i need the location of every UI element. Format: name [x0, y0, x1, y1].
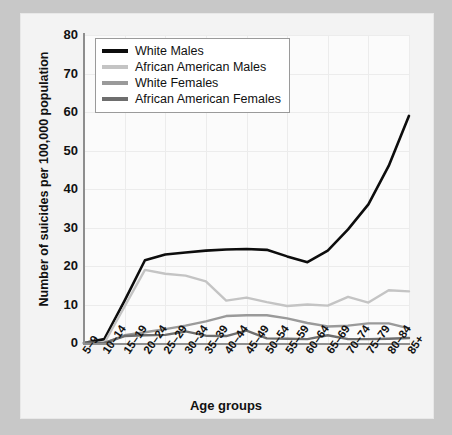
- legend-swatch-icon: [102, 81, 128, 85]
- legend-swatch-icon: [102, 65, 128, 69]
- legend-label: African American Males: [135, 60, 266, 74]
- series-line: [84, 116, 409, 343]
- y-tick-label: 10: [52, 298, 78, 311]
- y-tick-label: 40: [52, 182, 78, 195]
- x-axis-title: Age groups: [0, 398, 452, 413]
- legend-item[interactable]: White Males: [102, 43, 281, 59]
- chart-figure: 80706050403020100 5–910–1415–1920–2425–2…: [0, 0, 452, 435]
- y-axis-line: [83, 33, 85, 345]
- y-tick-label: 0: [52, 336, 78, 349]
- gridline-vertical: [409, 35, 410, 343]
- legend-label: White Males: [135, 44, 204, 58]
- y-tick-label: 50: [52, 144, 78, 157]
- legend-item[interactable]: African American Females: [102, 91, 281, 107]
- y-tick-label: 20: [52, 259, 78, 272]
- y-tick-label: 70: [52, 67, 78, 80]
- legend-label: White Females: [135, 76, 218, 90]
- legend-item[interactable]: White Females: [102, 75, 281, 91]
- legend-swatch-icon: [102, 49, 128, 53]
- legend-label: African American Females: [135, 92, 281, 106]
- legend-item[interactable]: African American Males: [102, 59, 281, 75]
- chart-legend: White MalesAfrican American MalesWhite F…: [95, 38, 290, 113]
- legend-swatch-icon: [102, 97, 128, 101]
- y-axis-title: Number of suicides per 100,000 populatio…: [37, 39, 51, 319]
- y-tick-label: 60: [52, 105, 78, 118]
- y-tick-label: 30: [52, 221, 78, 234]
- y-tick-label: 80: [52, 28, 78, 41]
- y-axis-ticks: 80706050403020100: [50, 0, 78, 435]
